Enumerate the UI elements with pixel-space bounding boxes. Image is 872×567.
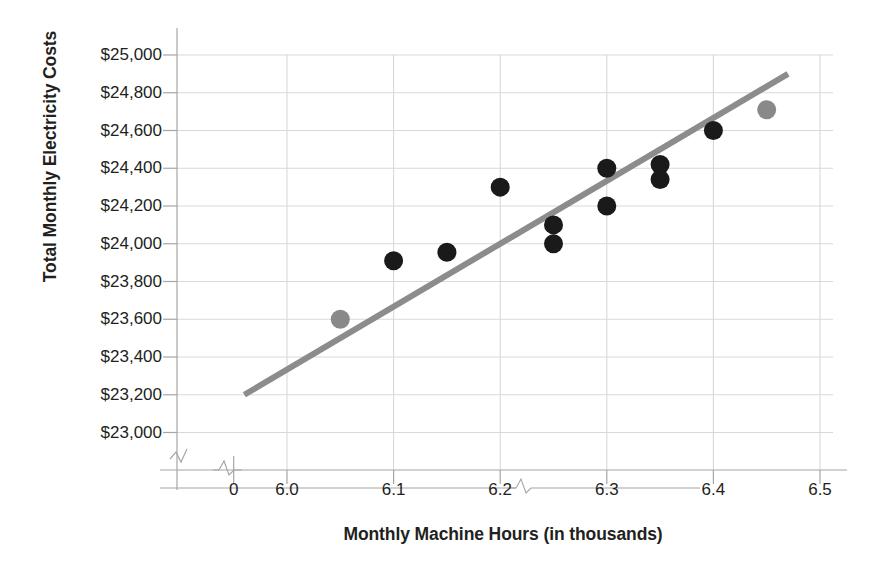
data-point[interactable] [544, 234, 563, 253]
x-axis-tick-label: 6.5 [780, 481, 860, 498]
y-axis-break-mark [170, 449, 187, 462]
regression-trendline [244, 74, 788, 395]
x-axis-tick-label: 6.1 [354, 481, 434, 498]
x-axis-break-mark [213, 461, 242, 475]
data-point[interactable] [757, 100, 776, 119]
x-axis-tick-label: 6.0 [247, 481, 327, 498]
scatter-chart: Total Monthly Electricity Costs $23,000$… [0, 0, 872, 567]
axis-ticks [163, 55, 820, 484]
data-point[interactable] [544, 215, 563, 234]
data-point[interactable] [331, 310, 350, 329]
gridlines-vertical [287, 55, 820, 470]
x-axis-title: Monthly Machine Hours (in thousands) [176, 524, 830, 545]
data-point[interactable] [597, 197, 616, 216]
data-point[interactable] [491, 178, 510, 197]
x-axis-tick-label: 6.3 [567, 481, 647, 498]
data-point[interactable] [704, 121, 723, 140]
x-axis-tick-label: 6.2 [460, 481, 540, 498]
x-axis-tick-label: 6.4 [673, 481, 753, 498]
data-point[interactable] [384, 251, 403, 270]
data-point[interactable] [597, 159, 616, 178]
data-point[interactable] [437, 243, 456, 262]
data-point[interactable] [651, 170, 670, 189]
trendline [244, 74, 788, 395]
